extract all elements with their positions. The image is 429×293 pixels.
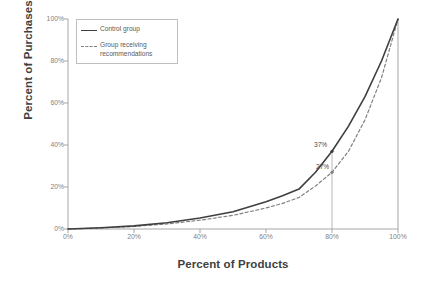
y-tick-marks [64,19,68,229]
chart-container: Percent of Purchases Percent of Products… [0,0,429,293]
data-point-control-80 [330,150,333,153]
legend-item-control: Control group [81,25,172,35]
legend-label-control: Control group [100,25,140,34]
legend-label-recommendations: Group receiving recommendations [100,41,172,58]
legend-swatch-solid-line-icon [81,26,97,35]
legend-item-recommendations: Group receiving recommendations [81,41,172,58]
chart-legend: Control group Group receiving recommenda… [76,19,178,64]
data-point-recommendations-80 [330,171,333,174]
x-tick-marks [68,229,398,233]
annotation-control-37: 37% [314,142,327,149]
plot-area [0,0,429,293]
legend-swatch-dashed-line-icon [81,42,97,51]
annotation-recommendations-27: 27% [316,164,329,171]
